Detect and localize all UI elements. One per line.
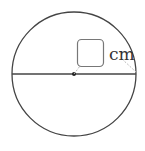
unit-label: cm (109, 44, 135, 64)
box-leader-line (74, 66, 80, 74)
answer-box[interactable] (78, 40, 104, 67)
circle-diagram: cm (0, 0, 145, 151)
